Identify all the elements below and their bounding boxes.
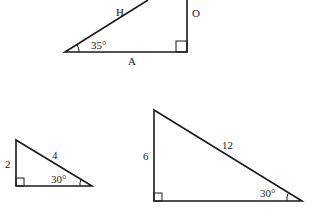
right-angle-marker [16,178,24,186]
hypotenuse-label: H [116,6,124,18]
angle-label: 30° [51,173,66,185]
large-triangle: 6 12 30° [143,110,302,201]
angle-arc [77,45,79,53]
hypotenuse-label: 12 [222,139,233,151]
angle-label: 35° [91,39,106,51]
adjacent-label: A [128,55,136,67]
hypotenuse-label: 4 [52,149,58,161]
right-angle-marker [176,41,187,52]
opposite-label: O [192,7,200,19]
reference-triangle: H O A 35° [65,0,200,67]
angle-arc [80,180,81,187]
opposite-label: 2 [5,158,11,170]
angle-arc [287,194,288,202]
right-angle-marker [154,193,162,201]
triangles-diagram: H O A 35° 2 4 30° 6 12 30° [0,0,323,218]
opposite-label: 6 [143,150,149,162]
angle-label: 30° [260,187,275,199]
large-triangle-sides [154,110,302,201]
small-triangle: 2 4 30° [5,140,92,186]
reference-triangle-sides [65,0,187,52]
